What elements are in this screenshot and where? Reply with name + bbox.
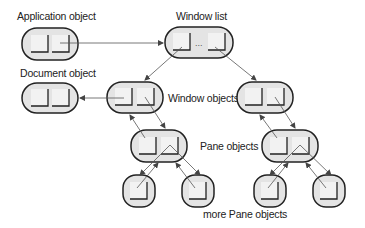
window-hierarchy-diagram: Application object Window list Document … [0,0,365,228]
sub-pane-node-3 [254,175,286,207]
pane-object-node-right [262,130,318,162]
document-object-node [22,83,78,113]
window-object-node-right [237,82,293,113]
pane-object-node-left [131,130,187,162]
arrows [60,43,331,188]
svg-text:...: ... [195,38,203,48]
diagram-graphics: ... [0,0,365,228]
application-object-node [22,28,78,60]
sub-pane-node-1 [123,175,155,207]
sub-pane-node-2 [182,175,214,207]
sub-pane-node-4 [313,175,345,207]
window-object-node-left [107,82,163,113]
